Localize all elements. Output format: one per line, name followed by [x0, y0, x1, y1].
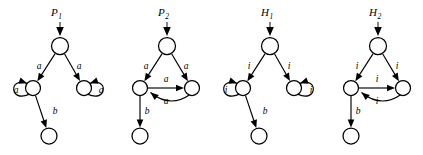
transition-H2-2-arrowhead — [387, 85, 395, 92]
state-P2-q-left[interactable] — [133, 81, 148, 96]
transition-label-H1-4: b — [263, 106, 268, 116]
transition-P2-3-arrowhead — [151, 93, 159, 101]
transition-label-P1-3: a — [99, 85, 104, 95]
transition-H2-3-arrowhead — [362, 93, 370, 101]
transition-label-P1-2: a — [14, 85, 19, 95]
transition-H1-4-line — [246, 96, 255, 122]
automaton-title-subscript-H2: 2 — [377, 12, 381, 21]
state-P1-q-right[interactable] — [77, 81, 92, 96]
transition-P2-0-arrowhead — [144, 73, 151, 82]
transition-label-P2-4: b — [145, 106, 150, 116]
transition-P1-2-arrowhead — [18, 78, 27, 84]
transition-P1-3-arrowhead — [90, 78, 99, 84]
transition-label-H2-0: i — [356, 61, 359, 71]
automaton-title-H1: H1 — [260, 6, 273, 21]
transition-label-H2-4: b — [356, 106, 361, 116]
automaton-title-subscript-P1: 1 — [58, 12, 62, 21]
transition-P2-1-arrowhead — [181, 73, 188, 82]
state-H1-q-top[interactable] — [262, 38, 279, 55]
state-H2-q-right[interactable] — [396, 81, 411, 96]
transition-label-P2-1: a — [184, 61, 189, 71]
automaton-title-H2: H2 — [368, 6, 381, 21]
transition-label-H1-1: i — [288, 61, 291, 71]
transition-label-P1-4: b — [53, 106, 58, 116]
automaton-H1: H1iiiib — [224, 6, 314, 144]
state-H1-q-bottom[interactable] — [251, 128, 267, 144]
transition-H2-0-arrowhead — [355, 73, 362, 82]
state-H1-q-right[interactable] — [287, 81, 302, 96]
state-H2-q-bottom[interactable] — [343, 128, 359, 144]
transition-H1-1-line — [274, 54, 286, 75]
transition-P2-4-arrowhead — [137, 120, 144, 128]
transition-label-H1-2: i — [225, 85, 228, 95]
transition-label-P2-2: a — [164, 74, 169, 84]
transition-label-P1-0: a — [37, 61, 42, 71]
transition-H1-4-arrowhead — [251, 119, 257, 128]
transition-label-H1-0: i — [248, 61, 251, 71]
transition-H2-4-arrowhead — [348, 120, 355, 128]
state-P1-q-top[interactable] — [52, 38, 69, 55]
start-arrowhead-P2 — [163, 27, 171, 36]
transition-P2-2-arrowhead — [176, 85, 184, 92]
transition-label-H2-3: i — [376, 96, 379, 106]
transition-P2-0-line — [148, 54, 162, 76]
transition-H1-0-arrowhead — [247, 73, 254, 82]
automaton-title-subscript-H1: 1 — [269, 12, 273, 21]
transition-P1-1-arrowhead — [73, 72, 80, 81]
transition-H1-1-arrowhead — [283, 72, 290, 81]
state-P2-q-right[interactable] — [185, 81, 200, 96]
transition-label-H2-1: i — [396, 61, 399, 71]
transition-P1-1-line — [64, 54, 76, 75]
transition-H1-2-arrowhead — [228, 78, 237, 84]
state-H2-q-top[interactable] — [370, 38, 387, 55]
automaton-title-P1: P1 — [50, 6, 62, 21]
transition-label-H2-2: i — [376, 74, 379, 84]
transition-H1-0-line — [251, 54, 265, 76]
state-P1-q-left[interactable] — [26, 81, 41, 96]
state-H1-q-left[interactable] — [236, 81, 251, 96]
automata-canvas: P1aaaabP2aaaabH1iiiibH2iiiib — [0, 0, 423, 155]
transition-label-P1-1: a — [77, 61, 82, 71]
transition-P1-0-line — [41, 54, 55, 76]
transition-H2-0-line — [359, 54, 373, 76]
automaton-title-P2: P2 — [157, 6, 169, 21]
transition-label-P2-0: a — [144, 61, 149, 71]
state-H2-q-left[interactable] — [344, 81, 359, 96]
start-arrowhead-H1 — [266, 27, 274, 36]
state-P1-q-bottom[interactable] — [41, 128, 57, 144]
transition-P1-0-arrowhead — [37, 73, 44, 82]
transition-H2-1-line — [383, 54, 396, 75]
automaton-P2: P2aaaab — [132, 6, 200, 144]
transition-label-P2-3: a — [164, 96, 169, 106]
transition-P1-4-arrowhead — [41, 119, 47, 128]
transition-H1-3-arrowhead — [300, 78, 309, 84]
state-P2-q-bottom[interactable] — [132, 128, 148, 144]
start-arrowhead-P1 — [56, 27, 64, 36]
transition-P2-1-line — [172, 54, 185, 75]
transition-label-H1-3: i — [310, 85, 313, 95]
start-arrowhead-H2 — [374, 27, 382, 36]
automaton-H2: H2iiiib — [343, 6, 411, 144]
automaton-P1: P1aaaab — [14, 6, 104, 144]
automaton-title-subscript-P2: 2 — [165, 12, 169, 21]
transition-P1-4-line — [36, 96, 45, 122]
state-P2-q-top[interactable] — [159, 38, 176, 55]
automata-figure: P1aaaabP2aaaabH1iiiibH2iiiib — [0, 0, 423, 155]
transition-H2-1-arrowhead — [392, 73, 399, 82]
